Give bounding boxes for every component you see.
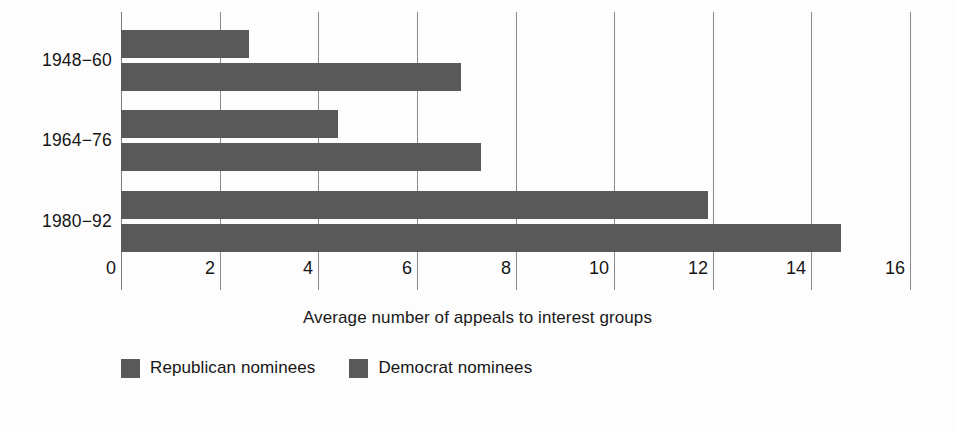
x-tick-label-4: 4 [303,258,318,279]
category-label-1980-92: 1980−92 [2,211,112,232]
bar-1964-76-democrat [121,143,481,171]
legend-swatch-icon [121,359,140,378]
plot-area: 0246810121416 1948−601964−761980−92 [0,0,955,300]
gridline-16 [910,12,911,290]
legend-item-republican: Republican nominees [121,358,315,378]
x-axis-title: Average number of appeals to interest gr… [0,308,955,328]
category-label-group: 1948−601964−761980−92 [0,0,112,300]
legend-item-democrat: Democrat nominees [349,358,532,378]
bar-1980-92-republican [121,191,708,219]
legend-label-republican: Republican nominees [150,358,315,378]
x-tick-label-8: 8 [501,258,516,279]
legend-label-democrat: Democrat nominees [378,358,532,378]
x-tick-label-12: 12 [688,258,713,279]
category-label-1964-76: 1964−76 [2,130,112,151]
bar-1948-60-republican [121,30,249,58]
x-tick-label-16: 16 [885,258,910,279]
legend-swatch-icon [349,359,368,378]
category-label-1948-60: 1948−60 [2,50,112,71]
x-tick-label-14: 14 [786,258,811,279]
x-tick-label-2: 2 [205,258,220,279]
bar-1948-60-democrat [121,63,461,91]
x-tick-label-10: 10 [589,258,614,279]
legend: Republican nominees Democrat nominees [121,358,532,378]
bar-1964-76-republican [121,110,338,138]
chart-figure: 0246810121416 1948−601964−761980−92 Aver… [0,0,955,433]
bar-1980-92-democrat [121,224,841,252]
x-tick-label-6: 6 [402,258,417,279]
